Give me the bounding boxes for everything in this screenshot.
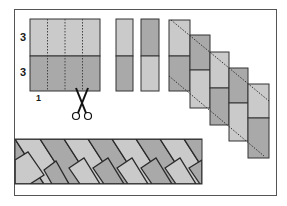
label-top-strip-height: 3 <box>20 31 26 43</box>
label-bottom-strip-height: 3 <box>20 66 26 78</box>
strip-square <box>30 19 100 91</box>
quilt-strip-diagram <box>0 0 287 206</box>
cut-segment-1 <box>116 19 133 91</box>
cut-segment-2 <box>141 19 159 91</box>
border-strip <box>0 139 237 184</box>
label-strip-width: 1 <box>36 93 41 103</box>
